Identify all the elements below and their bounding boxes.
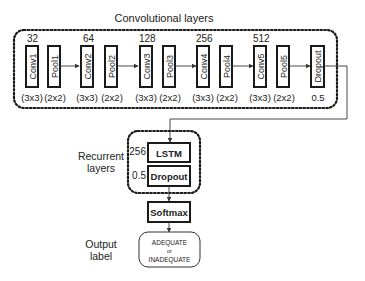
conv5-label: Conv5	[256, 53, 266, 79]
recurrent-label-line2: layers	[87, 162, 115, 174]
pool2-kernel: (2x2)	[101, 92, 123, 103]
channels-label: 32	[27, 33, 39, 44]
conv2-kernel: (3x3)	[76, 92, 98, 103]
output-value-line3: INADEQUATE	[149, 256, 191, 264]
lstm-units: 256	[129, 146, 146, 157]
recurrent-dropout-label: Dropout	[151, 171, 189, 182]
conv-dropout-label: Dropout	[313, 50, 323, 83]
channels-label: 64	[83, 33, 95, 44]
conv-block-5: 512 Conv5 Pool5 (3x3) (2x2)	[249, 33, 295, 103]
pool1-kernel: (2x2)	[44, 92, 66, 103]
conv-dropout-block: Dropout 0.5	[311, 46, 325, 103]
softmax-label: Softmax	[150, 207, 188, 218]
conv-block-1: 32 Conv1 Pool1 (3x3) (2x2)	[21, 33, 66, 103]
conv4-label: Conv4	[199, 53, 209, 79]
conv1-kernel: (3x3)	[21, 92, 43, 103]
lstm-label: LSTM	[156, 148, 182, 159]
pool4-kernel: (2x2)	[216, 92, 238, 103]
pool3-label: Pool3	[165, 55, 175, 78]
cnn-lstm-architecture-diagram: Convolutional layers 32 Conv1 Pool1 (3x3…	[0, 0, 365, 281]
conv3-label: Conv3	[142, 53, 152, 79]
recurrent-label-line1: Recurrent	[78, 150, 124, 162]
conv2-label: Conv2	[83, 53, 93, 79]
channels-label: 128	[139, 33, 156, 44]
conv-dropout-rate: 0.5	[311, 92, 324, 103]
conv1-label: Conv1	[28, 53, 38, 79]
pool5-kernel: (2x2)	[273, 92, 295, 103]
conv3-kernel: (3x3)	[135, 92, 157, 103]
output-label-line2: label	[90, 250, 112, 262]
conv-block-2: 64 Conv2 Pool2 (3x3) (2x2)	[76, 33, 123, 103]
channels-label: 512	[253, 33, 270, 44]
conv-section-title: Convolutional layers	[114, 12, 214, 24]
conv4-kernel: (3x3)	[192, 92, 214, 103]
conv-block-4: 256 Conv4 Pool4 (3x3) (2x2)	[192, 33, 238, 103]
pool2-label: Pool2	[107, 55, 117, 78]
pool4-label: Pool4	[222, 55, 232, 78]
pool5-label: Pool5	[279, 55, 289, 78]
conv-block-3: 128 Conv3 Pool3 (3x3) (2x2)	[135, 33, 181, 103]
channels-label: 256	[196, 33, 213, 44]
conv5-kernel: (3x3)	[249, 92, 271, 103]
output-value-line2: or	[167, 248, 172, 254]
recurrent-dropout-rate: 0.5	[132, 170, 146, 181]
pool3-kernel: (2x2)	[159, 92, 181, 103]
output-value-line1: ADEQUATE	[152, 239, 188, 247]
pool1-label: Pool1	[50, 55, 60, 78]
output-label-line1: Output	[85, 238, 117, 250]
